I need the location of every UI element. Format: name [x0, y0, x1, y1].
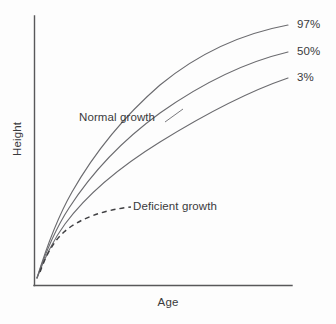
normal-growth-leader-line: [165, 109, 183, 122]
percentile-50-label: 50%: [297, 45, 320, 57]
percentile-3-label: 3%: [297, 71, 314, 83]
y-axis-label: Height: [11, 109, 23, 169]
percentile-97-curve: [37, 25, 288, 278]
growth-chart-canvas: [0, 0, 336, 324]
percentile-97-label: 97%: [297, 18, 320, 30]
growth-chart: 97% 50% 3% Normal growth Deficient growt…: [0, 0, 336, 324]
x-axis-label: Age: [0, 296, 336, 308]
normal-growth-annotation: Normal growth: [79, 111, 155, 123]
deficient-growth-curve: [40, 207, 131, 272]
percentile-50-curve: [37, 52, 288, 278]
deficient-growth-annotation: Deficient growth: [133, 200, 217, 212]
percentile-3-curve: [37, 78, 288, 278]
